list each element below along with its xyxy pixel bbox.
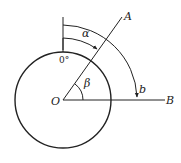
beta-arc: [75, 84, 83, 100]
outer-arc-b: [63, 25, 137, 97]
angle-diagram: A B O α β b 0°: [0, 0, 181, 163]
inner-arc-alpha: [63, 38, 97, 50]
ray-oa: [63, 17, 122, 100]
label-o: O: [51, 95, 60, 108]
label-arc-b: b: [139, 83, 146, 96]
label-alpha: α: [82, 27, 90, 40]
label-b: B: [165, 94, 174, 107]
label-zero-degree: 0°: [59, 55, 69, 65]
label-a: A: [123, 10, 132, 23]
label-beta: β: [83, 77, 90, 90]
